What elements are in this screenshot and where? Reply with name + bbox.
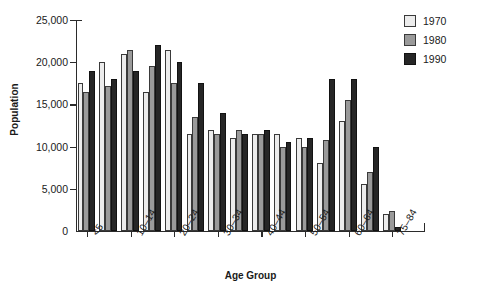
- legend-item-1980: 1980: [404, 31, 488, 48]
- bar-1990-50–54: [307, 138, 313, 231]
- legend-label: 1980: [423, 34, 446, 46]
- plot-area: [76, 20, 425, 232]
- bar-1990-<5: [89, 71, 95, 231]
- y-axis-tick-mark: [70, 62, 76, 63]
- legend-swatch-icon: [404, 53, 416, 65]
- bars-layer: [76, 20, 425, 232]
- bar-1990-35–39: [242, 134, 248, 231]
- bar-1990-5–9: [111, 79, 117, 231]
- y-axis-tick-label: 10,000: [18, 142, 68, 152]
- y-axis-tick-label: 5,000: [18, 184, 68, 194]
- y-axis-tick-label: 0: [18, 226, 68, 236]
- y-axis-tick-mark: [70, 189, 76, 190]
- bar-1990-40–44: [264, 130, 270, 231]
- y-axis-tick-mark: [70, 147, 76, 148]
- legend-item-1990: 1990: [404, 50, 488, 67]
- x-axis-title: Age Group: [76, 270, 425, 281]
- y-axis-tick-label: 20,000: [18, 57, 68, 67]
- y-axis-tick-labels: 05,00010,00015,00020,00025,000: [18, 0, 68, 290]
- legend-label: 1970: [423, 15, 446, 27]
- legend: 197019801990: [404, 12, 488, 69]
- bar-1990-45–49: [286, 142, 292, 231]
- population-by-age-group-bar-chart: Population 05,00010,00015,00020,00025,00…: [0, 0, 491, 290]
- legend-label: 1990: [423, 53, 446, 65]
- bar-1990-10–14: [133, 71, 139, 231]
- bar-1990-65–74: [373, 147, 379, 231]
- y-axis-tick-label: 15,000: [18, 99, 68, 109]
- legend-swatch-icon: [404, 34, 416, 46]
- bar-1990-25–29: [198, 83, 204, 231]
- bar-1990-15–19: [155, 45, 161, 231]
- bar-1990-30–34: [220, 113, 226, 231]
- bar-1990-20–24: [177, 62, 183, 231]
- legend-swatch-icon: [404, 15, 416, 27]
- bar-1990-60–64: [351, 79, 357, 231]
- y-axis-tick-label: 25,000: [18, 15, 68, 25]
- y-axis-tick-mark: [70, 20, 76, 21]
- bar-1990-55–59: [329, 79, 335, 231]
- legend-item-1970: 1970: [404, 12, 488, 29]
- y-axis-tick-mark: [70, 104, 76, 105]
